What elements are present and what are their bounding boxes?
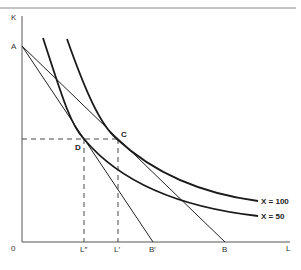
isoquant-x100 bbox=[67, 39, 258, 201]
b-prime-label: B′ bbox=[149, 245, 156, 254]
origin-label: 0 bbox=[11, 244, 16, 253]
x-axis-label: L bbox=[286, 244, 291, 253]
l-double-prime-label: L″ bbox=[80, 245, 87, 254]
point-c-label: C bbox=[121, 130, 127, 139]
y-axis-label: K bbox=[11, 13, 17, 22]
l-prime-label: L′ bbox=[114, 245, 120, 254]
isoquant-x100-label: X = 100 bbox=[261, 197, 289, 206]
isoquant-x50-label: X = 50 bbox=[261, 212, 285, 221]
isoquant-diagram: K A 0 L D C L″ L′ B′ B X = 100 X = 50 bbox=[0, 0, 301, 270]
isoquant-x50 bbox=[43, 38, 258, 216]
point-a-label: A bbox=[11, 42, 17, 51]
point-d-label: D bbox=[75, 143, 81, 152]
b-label: B bbox=[222, 245, 227, 254]
